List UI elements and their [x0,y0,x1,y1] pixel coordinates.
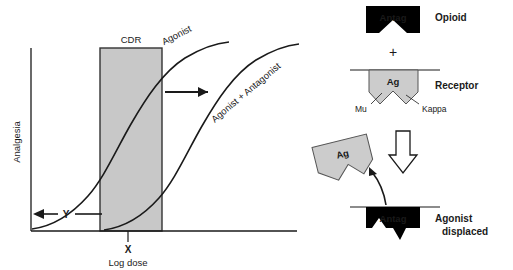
dose-response-chart: CDR Y X Log dose Analgesia Agonist Agoni… [0,0,300,270]
antagonist-bound-label: Antag [380,213,407,224]
free-agonist-shape [312,134,376,184]
curve-label-agonist: Agonist [160,23,194,47]
kappa-label: Kappa [422,104,447,114]
x-dose-label: X [125,244,132,255]
mu-label: Mu [355,104,367,114]
side-label-agonist-displaced-2: displaced [442,226,488,237]
figure-root: CDR Y X Log dose Analgesia Agonist Agoni… [0,0,513,270]
agonist-bound-label: Ag [387,76,400,87]
plus-symbol: + [389,44,397,60]
down-arrow-icon [389,131,417,173]
y-displacement-label: Y [63,209,70,220]
antagonist-bound-group: Antag [350,207,440,240]
x-axis-title: Log dose [108,257,147,268]
cdr-label: CDR [121,34,142,45]
release-arrow [369,167,386,205]
mechanism-svg: Antag Opioid + Ag Mu Kappa Receptor [300,0,513,270]
free-agonist-group: Ag [312,134,376,184]
antagonist-block-group: Antag [366,6,420,33]
shift-arrow [165,87,208,97]
antagonist-block-label: Antag [380,12,407,23]
receptor-group: Ag Mu Kappa [350,70,447,114]
side-label-receptor: Receptor [435,80,478,91]
curve-label-agonist-antagonist: Agonist + Antagonist [209,60,283,125]
side-label-agonist-displaced-1: Agonist [435,213,473,224]
chart-svg: CDR Y X Log dose Analgesia Agonist Agoni… [0,0,300,270]
receptor-mechanism-diagram: Antag Opioid + Ag Mu Kappa Receptor [300,0,513,270]
side-label-opioid: Opioid [435,12,467,23]
y-axis-title: Analgesia [11,120,22,162]
